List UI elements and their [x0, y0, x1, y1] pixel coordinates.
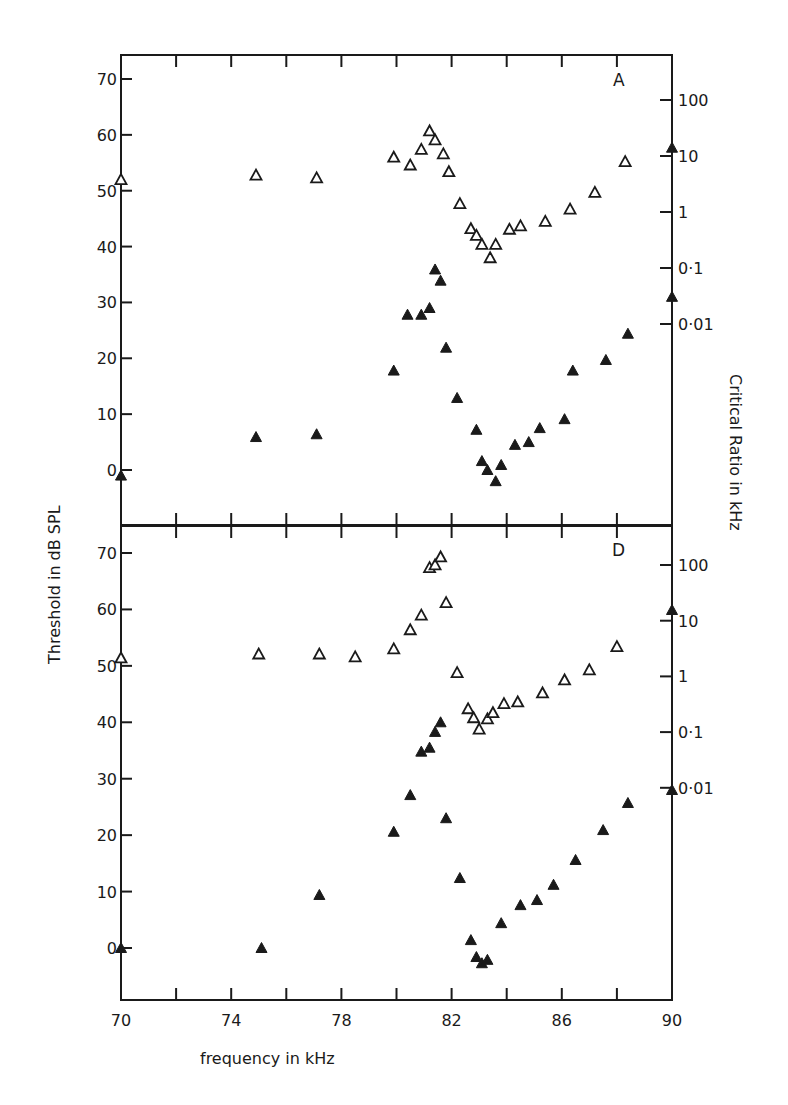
y2-axis-label: Critical Ratio in kHz — [726, 374, 745, 531]
filled-triangle-marker — [515, 900, 526, 910]
filled-triangle-marker — [435, 717, 446, 727]
open-triangle-marker — [405, 160, 416, 170]
open-triangle-marker — [454, 198, 465, 208]
filled-triangle-marker — [430, 264, 441, 274]
open-triangle-marker — [441, 597, 452, 607]
filled-triangle-marker — [667, 291, 678, 301]
y-tick-label: 70 — [97, 70, 117, 89]
open-triangle-marker — [487, 707, 498, 717]
x-tick-label: 78 — [331, 1011, 351, 1030]
y2-tick-label: 10 — [678, 612, 698, 631]
filled-triangle-marker — [532, 895, 543, 905]
filled-triangle-marker — [496, 459, 507, 469]
y-tick-label: 50 — [97, 657, 117, 676]
filled-triangle-marker — [405, 790, 416, 800]
open-triangle-marker — [416, 144, 427, 154]
filled-triangle-marker — [598, 825, 609, 835]
filled-triangle-marker — [441, 813, 452, 823]
y-tick-label: 0 — [107, 939, 117, 958]
y2-tick-label: 0·1 — [678, 723, 703, 742]
y-tick-label: 20 — [97, 349, 117, 368]
y-tick-label: 10 — [97, 405, 117, 424]
open-triangle-marker — [490, 239, 501, 249]
chart-figure: 0102030405060701001010·10·01010203040506… — [0, 0, 788, 1105]
panel-frame — [121, 526, 672, 1000]
open-triangle-marker — [435, 551, 446, 561]
filled-triangle-marker — [490, 476, 501, 486]
filled-triangle-marker — [600, 354, 611, 364]
filled-triangle-marker — [435, 275, 446, 285]
open-triangle-marker — [611, 641, 622, 651]
open-triangle-marker — [540, 216, 551, 226]
filled-triangle-marker — [430, 726, 441, 736]
open-triangle-marker — [537, 687, 548, 697]
y2-tick-label: 0·01 — [678, 779, 714, 798]
open-triangle-marker — [443, 166, 454, 176]
filled-triangle-marker — [523, 437, 534, 447]
filled-triangle-marker — [311, 429, 322, 439]
x-tick-label: 70 — [111, 1011, 131, 1030]
filled-triangle-marker — [424, 303, 435, 313]
open-triangle-marker — [311, 172, 322, 182]
filled-triangle-marker — [424, 742, 435, 752]
open-triangle-marker — [253, 649, 264, 659]
open-triangle-marker — [620, 156, 631, 166]
filled-triangle-marker — [667, 785, 678, 795]
y2-tick-label: 10 — [678, 147, 698, 166]
filled-triangle-marker — [250, 432, 261, 442]
filled-triangle-marker — [441, 342, 452, 352]
filled-triangle-marker — [622, 328, 633, 338]
y-tick-label: 60 — [97, 600, 117, 619]
y2-tick-label: 100 — [678, 91, 709, 110]
y2-tick-label: 100 — [678, 556, 709, 575]
y2-tick-label: 0·1 — [678, 259, 703, 278]
y-tick-label: 30 — [97, 770, 117, 789]
filled-triangle-marker — [471, 424, 482, 434]
y-tick-label: 10 — [97, 883, 117, 902]
filled-triangle-marker — [534, 423, 545, 433]
filled-triangle-marker — [314, 889, 325, 899]
open-triangle-marker — [405, 624, 416, 634]
open-triangle-marker — [388, 643, 399, 653]
y-tick-label: 70 — [97, 544, 117, 563]
y-tick-label: 60 — [97, 126, 117, 145]
filled-triangle-marker — [567, 365, 578, 375]
x-axis-label: frequency in kHz — [200, 1049, 335, 1068]
filled-triangle-marker — [570, 854, 581, 864]
x-tick-label: 74 — [221, 1011, 241, 1030]
x-tick-label: 86 — [552, 1011, 572, 1030]
open-triangle-marker — [388, 152, 399, 162]
x-tick-label: 90 — [662, 1011, 682, 1030]
open-triangle-marker — [250, 170, 261, 180]
open-triangle-marker — [350, 651, 361, 661]
open-triangle-marker — [116, 174, 127, 184]
filled-triangle-marker — [622, 797, 633, 807]
filled-triangle-marker — [548, 879, 559, 889]
open-triangle-marker — [314, 649, 325, 659]
open-triangle-marker — [424, 125, 435, 135]
filled-triangle-marker — [509, 439, 520, 449]
y2-tick-label: 1 — [678, 667, 688, 686]
open-triangle-marker — [416, 610, 427, 620]
filled-triangle-marker — [452, 392, 463, 402]
open-triangle-marker — [584, 664, 595, 674]
panel-frame — [121, 55, 672, 525]
x-tick-label: 82 — [441, 1011, 461, 1030]
open-triangle-marker — [504, 224, 515, 234]
open-triangle-marker — [438, 148, 449, 158]
filled-triangle-marker — [496, 918, 507, 928]
y2-tick-label: 1 — [678, 203, 688, 222]
open-triangle-marker — [589, 187, 600, 197]
open-triangle-marker — [559, 674, 570, 684]
y-tick-label: 20 — [97, 826, 117, 845]
filled-triangle-marker — [559, 414, 570, 424]
y2-tick-label: 0·01 — [678, 315, 714, 334]
filled-triangle-marker — [482, 954, 493, 964]
filled-triangle-marker — [476, 456, 487, 466]
panel-label-a: A — [613, 70, 625, 90]
open-triangle-marker — [485, 252, 496, 262]
y-tick-label: 50 — [97, 182, 117, 201]
y-axis-label: Threshold in dB SPL — [45, 505, 64, 665]
filled-triangle-marker — [465, 935, 476, 945]
open-triangle-marker — [116, 652, 127, 662]
